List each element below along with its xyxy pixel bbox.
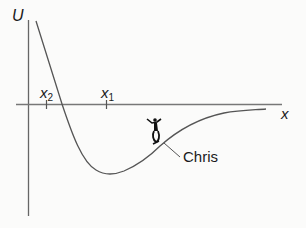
potential-energy-diagram: U x x2 x1 Chris <box>0 0 306 228</box>
skateboarder-icon <box>147 118 161 144</box>
y-axis-label: U <box>12 8 24 24</box>
potential-curve <box>36 21 266 174</box>
x-axis-label: x <box>281 106 289 121</box>
chris-leader-line <box>164 143 180 157</box>
tick-label-x2-sub: 2 <box>48 92 54 103</box>
tick-label-x1-sub: 1 <box>109 92 115 103</box>
tick-label-x2: x2 <box>40 85 53 103</box>
chris-label: Chris <box>183 149 218 164</box>
tick-label-x2-name: x <box>40 84 48 101</box>
diagram-canvas <box>0 0 306 228</box>
tick-label-x1-name: x <box>101 84 109 101</box>
tick-label-x1: x1 <box>101 85 114 103</box>
